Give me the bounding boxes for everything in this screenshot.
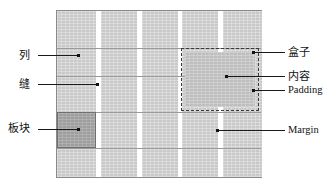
leader-line-box xyxy=(254,52,285,53)
callout-dot-column xyxy=(77,54,80,57)
grid-column-2 xyxy=(101,11,137,177)
label-column: 列 xyxy=(19,50,30,61)
leader-line-gutter xyxy=(38,84,97,85)
leader-line-margin xyxy=(218,130,285,131)
label-padding: Padding xyxy=(288,85,322,96)
label-block: 板块 xyxy=(8,123,30,134)
grid-row-line-4 xyxy=(57,148,261,149)
box-content-area xyxy=(185,52,255,107)
callout-dot-gutter xyxy=(96,83,99,86)
grid-anatomy-diagram: 列 缝 板块 盒子 内容 Padding Margin xyxy=(0,0,325,186)
leader-line-block xyxy=(38,129,78,130)
callout-dot-block xyxy=(77,128,80,131)
label-margin: Margin xyxy=(288,125,319,136)
label-gutter: 缝 xyxy=(19,79,30,90)
leader-line-padding xyxy=(254,90,285,91)
grid-frame xyxy=(56,10,262,178)
label-content: 内容 xyxy=(288,71,310,82)
label-box: 盒子 xyxy=(288,47,310,58)
grid-column-1 xyxy=(57,11,96,177)
grid-column-3b xyxy=(142,11,178,177)
leader-line-column xyxy=(38,55,78,56)
leader-line-content xyxy=(227,76,285,77)
